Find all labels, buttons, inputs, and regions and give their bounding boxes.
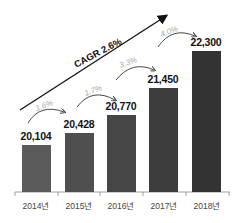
value-label-2014: 20,104 <box>11 130 61 142</box>
category-label-2017: 2017년 <box>143 199 185 211</box>
bar-chart: 20,104 20,428 20,770 21,450 22,300 1.6% … <box>0 0 244 223</box>
bar-2014 <box>22 145 51 192</box>
category-label-2014: 2014년 <box>15 199 57 211</box>
category-label-2015: 2015년 <box>58 199 100 211</box>
category-label-2018: 2018년 <box>186 199 228 211</box>
value-label-2015: 20,428 <box>54 118 104 130</box>
category-label-2016: 2016년 <box>100 199 142 211</box>
bar-2015 <box>65 133 94 192</box>
value-label-2017: 21,450 <box>138 73 188 85</box>
value-label-2016: 20,770 <box>96 100 146 112</box>
bar-2016 <box>107 115 136 192</box>
value-label-2018: 22,300 <box>181 36 231 48</box>
bar-2018 <box>192 51 221 192</box>
bar-2017 <box>149 88 178 192</box>
